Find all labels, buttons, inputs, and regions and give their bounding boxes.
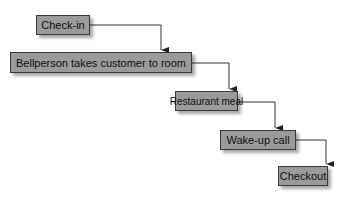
arrow-bellperson-to-restaurant bbox=[192, 63, 229, 89]
step-restaurant-meal: Restaurant meal bbox=[175, 91, 238, 111]
step-wake-up-call: Wake-up call bbox=[220, 130, 296, 150]
step-label: Restaurant meal bbox=[170, 96, 243, 107]
step-bellperson: Bellperson takes customer to room bbox=[10, 52, 192, 73]
arrow-checkin-to-bellperson bbox=[90, 25, 161, 50]
step-label: Check-in bbox=[41, 19, 84, 31]
step-label: Bellperson takes customer to room bbox=[16, 57, 186, 69]
step-label: Wake-up call bbox=[226, 134, 289, 146]
arrow-wakeup-to-checkout bbox=[296, 140, 326, 164]
step-check-in: Check-in bbox=[36, 15, 90, 35]
step-checkout: Checkout bbox=[278, 166, 328, 186]
step-label: Checkout bbox=[280, 170, 326, 182]
arrow-restaurant-to-wakeup bbox=[238, 102, 275, 128]
